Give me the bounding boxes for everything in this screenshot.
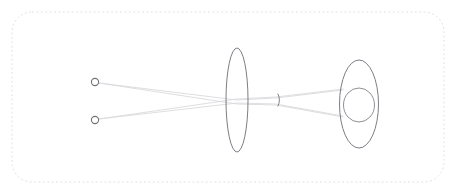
optical-elements xyxy=(226,48,379,152)
dashed-frame-border xyxy=(12,12,444,182)
ray-upper-to-upper-image xyxy=(99,83,343,100)
optical-ray-diagram xyxy=(0,0,456,194)
ray-upper-to-lower-image xyxy=(99,83,343,117)
diagram-canvas xyxy=(0,0,456,194)
ray-bundle xyxy=(99,83,343,119)
object-points xyxy=(91,78,98,123)
object-point-lower xyxy=(91,116,98,123)
object-point-upper xyxy=(91,78,98,85)
eye-outer-ellipse xyxy=(340,60,379,148)
eye-inner-ellipse xyxy=(344,88,375,122)
ray-lower-to-lower-image xyxy=(99,103,343,119)
